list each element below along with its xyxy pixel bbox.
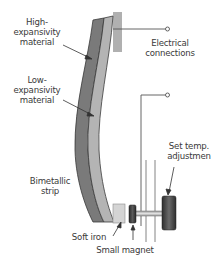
soft-iron-block <box>113 204 125 223</box>
label-set-temp-adjustment: Set temp. adjustmen <box>160 141 218 161</box>
label-electrical-connections: Electrical connections <box>135 38 205 58</box>
label-low-expansivity: Low- expansivity material <box>8 75 66 105</box>
set-temp-knob[interactable] <box>162 196 176 230</box>
bimetallic-thermostat-diagram: High- expansivity material Low- expansiv… <box>0 0 218 267</box>
adjustment-rod <box>133 211 163 216</box>
small-magnet <box>129 205 136 223</box>
mount-block <box>113 12 122 52</box>
label-high-expansivity: High- expansivity material <box>8 17 66 47</box>
label-soft-iron: Soft iron <box>66 232 112 242</box>
top-terminal-icon <box>166 27 170 31</box>
lower-terminal-icon <box>166 93 170 97</box>
label-small-magnet: Small magnet <box>90 245 160 255</box>
label-bimetallic-strip: Bimetallic strip <box>25 176 75 196</box>
